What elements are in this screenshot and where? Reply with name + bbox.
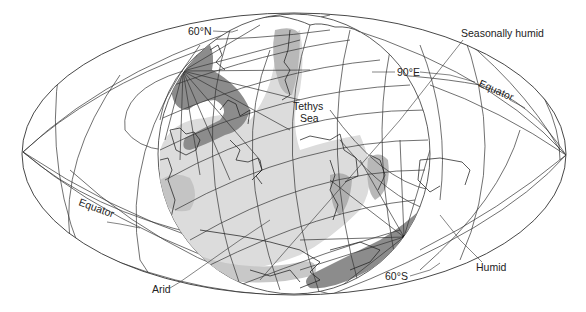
label-60s: 60°S	[385, 270, 408, 282]
label-humid: Humid	[476, 261, 507, 273]
label-60n: 60°N	[188, 25, 211, 37]
label-arid: Arid	[152, 283, 171, 295]
label-90e: 90°E	[397, 66, 420, 78]
label-sea: Sea	[300, 112, 319, 124]
paleoclimate-map: 60°N Seasonally humid 90°E Equator Tethy…	[0, 0, 586, 312]
label-seasonally-humid: Seasonally humid	[461, 27, 544, 39]
label-tethys: Tethys	[293, 100, 323, 112]
